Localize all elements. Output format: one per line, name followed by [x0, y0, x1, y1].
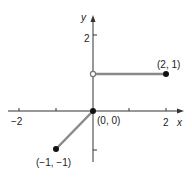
- y-axis-arrow-icon: [91, 15, 96, 22]
- x-axis-arrow-icon: [177, 109, 184, 114]
- annotation-m1-m1: (−1, −1): [36, 157, 71, 168]
- y-axis-label: y: [80, 12, 87, 23]
- open-point-0-1: [90, 71, 95, 76]
- closed-point-0-0: [90, 108, 96, 114]
- y-tick-label-2: 2: [84, 33, 90, 44]
- x-tick-label-2: 2: [163, 117, 169, 128]
- x-axis-label: x: [176, 117, 183, 128]
- x-tick-label-neg2: −2: [11, 116, 23, 127]
- annotation-0-0: (0, 0): [97, 115, 120, 126]
- closed-point-2-1: [163, 71, 169, 77]
- closed-point-m1-m1: [53, 146, 59, 152]
- piecewise-graph: y x 2 −2 2 (2, 1) (0, 0) (−1, −1): [0, 0, 192, 180]
- segment-neg: [56, 111, 93, 149]
- annotation-2-1: (2, 1): [157, 59, 180, 70]
